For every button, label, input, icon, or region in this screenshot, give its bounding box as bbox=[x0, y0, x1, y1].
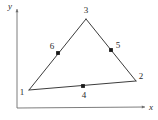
y-axis bbox=[16, 9, 19, 108]
x-axis-label: x bbox=[149, 103, 153, 112]
node-label-1: 1 bbox=[20, 88, 25, 97]
y-axis-arrowhead bbox=[16, 9, 19, 12]
y-axis-label: y bbox=[8, 2, 12, 11]
node-dot-6 bbox=[56, 51, 60, 55]
node-dot-4 bbox=[81, 84, 85, 88]
node-label-3: 3 bbox=[84, 6, 89, 15]
node-label-6: 6 bbox=[50, 42, 55, 51]
node-label-4: 4 bbox=[82, 91, 87, 100]
diagram-svg bbox=[0, 0, 158, 120]
node-dot-5 bbox=[109, 48, 113, 52]
nodes bbox=[56, 48, 113, 88]
x-axis-line bbox=[17, 107, 145, 108]
x-axis-arrowhead bbox=[142, 106, 145, 109]
node-label-5: 5 bbox=[116, 41, 121, 50]
x-axis bbox=[17, 106, 145, 109]
node-label-2: 2 bbox=[139, 72, 144, 81]
triangle-edges bbox=[29, 19, 136, 90]
figure-canvas: 123456xy bbox=[0, 0, 158, 120]
